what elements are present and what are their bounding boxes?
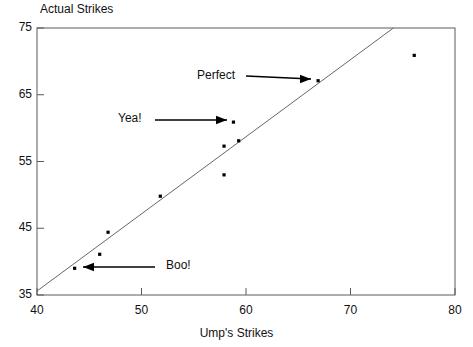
scatter-plot-svg bbox=[0, 0, 473, 347]
arrow-head-boo bbox=[83, 263, 94, 271]
x-tick-label: 70 bbox=[331, 303, 371, 317]
x-tick-label: 80 bbox=[435, 303, 473, 317]
annotation-label-perfect: Perfect bbox=[197, 68, 235, 82]
x-tick-label: 60 bbox=[226, 303, 266, 317]
x-axis-title: Ump's Strikes bbox=[0, 326, 473, 340]
x-tick-label: 40 bbox=[17, 303, 57, 317]
data-point-group bbox=[73, 54, 416, 270]
data-point bbox=[232, 121, 235, 124]
annotation-label-boo: Boo! bbox=[166, 258, 191, 272]
y-tick-label: 55 bbox=[2, 154, 32, 168]
data-point bbox=[413, 54, 416, 57]
data-point bbox=[73, 267, 76, 270]
x-tick-label: 50 bbox=[122, 303, 162, 317]
data-point bbox=[237, 139, 240, 142]
y-tick-label: 65 bbox=[2, 87, 32, 101]
data-point bbox=[159, 195, 162, 198]
data-point bbox=[222, 173, 225, 176]
chart-canvas: Actual Strikes Ump's Strikes 3545556575 … bbox=[0, 0, 473, 347]
y-tick-label: 75 bbox=[2, 20, 32, 34]
y-tick-label: 35 bbox=[2, 287, 32, 301]
arrow-head-perfect bbox=[300, 75, 311, 83]
data-point bbox=[222, 145, 225, 148]
data-point bbox=[317, 79, 320, 82]
arrow-head-yea bbox=[216, 116, 227, 124]
y-tick-label: 45 bbox=[2, 220, 32, 234]
data-point bbox=[98, 253, 101, 256]
annotation-label-yea: Yea! bbox=[118, 111, 142, 125]
data-point bbox=[106, 231, 109, 234]
y-axis-title: Actual Strikes bbox=[40, 2, 113, 16]
